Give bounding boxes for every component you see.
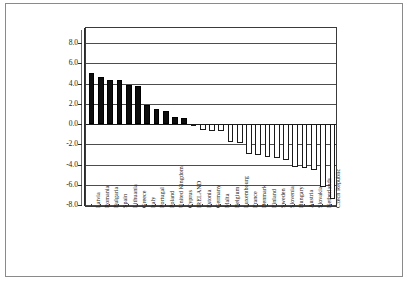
x-axis-label-czech-republic: Czech Republic xyxy=(334,169,341,208)
plot-area xyxy=(86,33,336,205)
bar-lithuania xyxy=(126,85,132,124)
x-axis-tick-mark xyxy=(128,204,129,206)
bar-slovenia xyxy=(283,124,289,160)
y-axis-tick-mark xyxy=(78,104,82,105)
bar-france xyxy=(246,124,252,154)
y-axis-tick-mark xyxy=(78,165,82,166)
bar-hungary xyxy=(292,124,298,166)
y-axis-outer-line xyxy=(81,30,82,205)
y-axis-tick-mark xyxy=(78,43,82,44)
bar-portugal xyxy=(154,109,160,124)
y-axis-tick-label: 0.0 xyxy=(54,120,78,128)
y-axis-tick-label: -2.0 xyxy=(54,140,78,148)
x-axis-category-labels: LatviaRomaniaBulgariaSpainLithuaniaGreec… xyxy=(86,206,336,280)
bar-cyprus xyxy=(181,118,187,124)
y-axis-tick-label: 4.0 xyxy=(54,80,78,88)
x-axis-label-united-kingdom: United Kingdom xyxy=(177,166,184,208)
bar-bulgaria xyxy=(107,80,113,125)
y-axis-tick-mark xyxy=(78,144,82,145)
bar-estonia xyxy=(200,124,206,130)
y-axis-tick-mark xyxy=(78,63,82,64)
bar-latvia xyxy=(89,73,95,124)
bar-germany xyxy=(209,124,215,131)
x-axis-tick-mark xyxy=(211,204,212,206)
x-axis-tick-mark xyxy=(155,204,156,206)
bar-poland xyxy=(163,111,169,124)
bar-belgium xyxy=(228,124,234,142)
x-axis-tick-mark xyxy=(174,204,175,206)
x-axis-tick-mark xyxy=(109,204,110,206)
bar-finland xyxy=(265,124,271,157)
x-axis-tick-mark xyxy=(322,204,323,206)
bar-malta xyxy=(218,124,224,131)
bar-spain xyxy=(117,80,123,125)
y-axis-tick-mark xyxy=(78,205,82,206)
bars-layer xyxy=(86,33,336,205)
y-axis-tick-label: -4.0 xyxy=(54,161,78,169)
bar-greece xyxy=(135,86,141,124)
x-axis-tick-mark xyxy=(165,204,166,206)
x-axis-tick-mark xyxy=(267,204,268,206)
y-axis-tick-label: 6.0 xyxy=(54,59,78,67)
x-axis-tick-mark xyxy=(331,204,332,206)
x-axis-tick-mark xyxy=(137,204,138,206)
bar-slovakia xyxy=(311,124,317,170)
chart-page: 8.06.04.02.00.0-2.0-4.0-6.0-8.0 LatviaRo… xyxy=(0,0,408,282)
y-axis-tick-mark xyxy=(78,124,82,125)
x-axis-tick-mark xyxy=(202,204,203,206)
bar-denmark xyxy=(255,124,261,155)
x-axis-tick-mark xyxy=(91,204,92,206)
x-axis-tick-mark xyxy=(100,204,101,206)
x-axis-tick-mark xyxy=(257,204,258,206)
x-axis-tick-mark xyxy=(118,204,119,206)
x-axis-tick-mark xyxy=(248,204,249,206)
x-axis-tick-mark xyxy=(146,204,147,206)
bar-romania xyxy=(98,77,104,125)
x-axis-tick-mark xyxy=(183,204,184,206)
x-axis-tick-mark xyxy=(220,204,221,206)
x-axis-tick-mark xyxy=(239,204,240,206)
y-axis-tick-label: 2.0 xyxy=(54,100,78,108)
y-axis-tick-labels: 8.06.04.02.00.0-2.0-4.0-6.0-8.0 xyxy=(52,0,78,282)
bar-ireland xyxy=(191,124,197,126)
x-axis-tick-mark xyxy=(285,204,286,206)
bar-austria xyxy=(302,124,308,168)
x-axis-label-italy: Italy xyxy=(149,197,156,208)
y-axis-tick-label: -8.0 xyxy=(54,201,78,209)
y-axis-tick-label: 8.0 xyxy=(54,39,78,47)
bar-united-kingdom xyxy=(172,117,178,124)
x-axis-tick-mark xyxy=(304,204,305,206)
x-axis-tick-mark xyxy=(230,204,231,206)
y-axis-tick-mark xyxy=(78,185,82,186)
x-axis-tick-mark xyxy=(276,204,277,206)
y-axis-tick-mark xyxy=(78,84,82,85)
y-axis-tick-label: -6.0 xyxy=(54,181,78,189)
x-axis-tick-mark xyxy=(192,204,193,206)
bar-luxembourg xyxy=(237,124,243,143)
x-axis-tick-mark xyxy=(294,204,295,206)
x-axis-tick-mark xyxy=(313,204,314,206)
bar-italy xyxy=(144,105,150,124)
bar-sweden xyxy=(274,124,280,158)
